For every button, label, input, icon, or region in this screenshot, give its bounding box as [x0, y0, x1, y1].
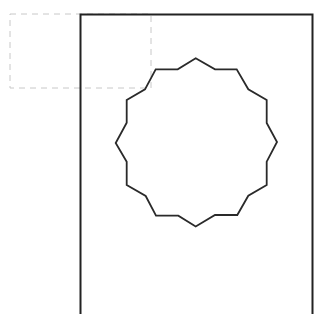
diagram-canvas	[0, 0, 322, 320]
canvas-background	[0, 0, 322, 320]
